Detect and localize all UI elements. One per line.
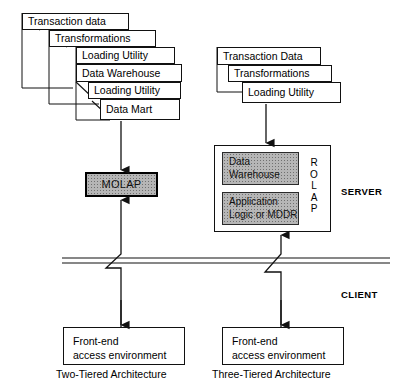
frontend-box-three-tier: Front-end access environment <box>222 327 344 365</box>
frontend-box-two-tier: Front-end access environment <box>63 327 185 365</box>
left-stack-label: Transformations <box>55 32 130 44</box>
caption-three-tiered: Three-Tiered Architecture <box>212 368 331 380</box>
left-stack-label: Loading Utility <box>94 84 160 96</box>
left-stack-box-loading-utility-1: Loading Utility <box>76 47 175 64</box>
caption-two-tiered: Two-Tiered Architecture <box>56 368 167 380</box>
right-stack-box-loading-utility: Loading Utility <box>242 82 341 103</box>
right-stack-box-transformations: Transformations <box>228 65 332 82</box>
left-stack-label: Transaction data <box>28 15 106 27</box>
left-stack-box-transaction-data: Transaction data <box>22 13 129 30</box>
right-stack-label: Transaction Data <box>223 50 303 62</box>
left-stack-box-data-warehouse: Data Warehouse <box>76 64 182 82</box>
right-stack-label: Transformations <box>234 67 309 79</box>
diagram-canvas: Transaction data Transformations Loading… <box>0 0 396 389</box>
left-stack-label: Data Warehouse <box>82 67 160 79</box>
molap-label: MOLAP <box>101 178 141 191</box>
server-label: SERVER <box>341 186 382 197</box>
left-stack-label: Data Mart <box>106 103 152 115</box>
right-stack-label: Loading Utility <box>248 86 314 98</box>
client-label: CLIENT <box>341 289 378 300</box>
right-stack-box-transaction-data: Transaction Data <box>217 47 321 65</box>
molap-box: MOLAP <box>85 172 158 197</box>
left-stack-box-loading-utility-2: Loading Utility <box>88 82 181 99</box>
rolap-inner-application-logic: Application Logic or MDDR <box>222 192 299 225</box>
left-stack-box-transformations: Transformations <box>49 30 156 47</box>
rolap-vertical-label: R O L A P <box>306 157 322 215</box>
left-stack-box-data-mart: Data Mart <box>100 99 180 120</box>
rolap-inner-data-warehouse: Data Warehouse <box>222 152 299 185</box>
left-stack-label: Loading Utility <box>82 49 148 61</box>
